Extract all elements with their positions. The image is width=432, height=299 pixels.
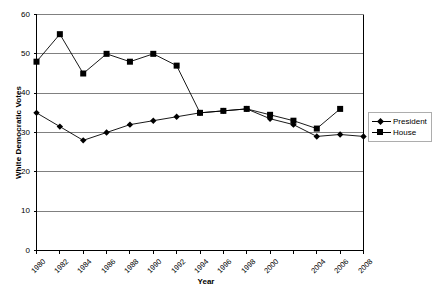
- y-tick-label: 0: [0, 247, 30, 255]
- y-tick-label: 50: [0, 50, 30, 58]
- y-tick-label: 10: [0, 207, 30, 215]
- legend-item-president: President: [372, 116, 427, 127]
- y-tick-label: 60: [0, 11, 30, 19]
- y-tick-label: 20: [0, 168, 30, 176]
- plot-area: [0, 0, 432, 299]
- y-tick-label: 30: [0, 129, 30, 137]
- president-marker-icon: [372, 116, 391, 127]
- legend-label-house: House: [391, 128, 416, 137]
- caption-sliver: [4, 291, 304, 299]
- house-marker-icon: [372, 127, 391, 138]
- legend-item-house: House: [372, 127, 427, 138]
- chart-legend: President House: [368, 112, 432, 142]
- legend-label-president: President: [391, 117, 427, 126]
- y-tick-label: 40: [0, 89, 30, 97]
- chart-container: White Democratic Votes Year 010203040506…: [0, 0, 432, 299]
